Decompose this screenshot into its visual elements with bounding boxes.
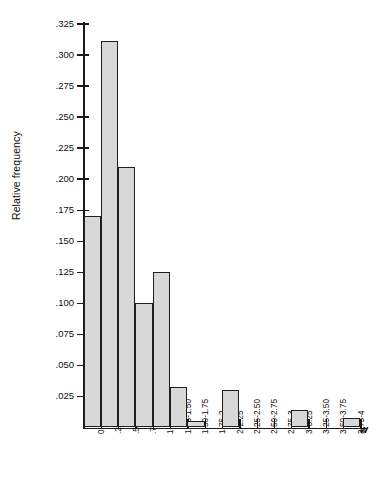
- histogram-bar: [291, 410, 308, 427]
- histogram-bar: [343, 418, 360, 428]
- y-tick: [77, 116, 89, 117]
- histogram-bar: [135, 303, 152, 427]
- y-axis-title: Relative frequency: [10, 60, 30, 220]
- x-tick-label: 2.25-2.50: [252, 374, 263, 434]
- histogram-bar: [222, 390, 239, 427]
- histogram-bar: [187, 421, 204, 427]
- y-tick-label: .250: [42, 112, 74, 121]
- y-tick: [77, 147, 89, 148]
- x-tick-label: 3.25-3.50: [321, 374, 332, 434]
- y-tick-label: .125: [42, 267, 74, 276]
- y-tick: [77, 54, 89, 55]
- y-tick: [77, 85, 89, 86]
- y-tick-label: .075: [42, 329, 74, 338]
- y-tick-label: .275: [42, 81, 74, 90]
- histogram-bar: [170, 387, 187, 428]
- histogram-figure: Relative frequency .325.300.275.250.225.…: [0, 0, 382, 482]
- histogram-bar: [118, 167, 135, 428]
- y-tick-label: .100: [42, 298, 74, 307]
- y-tick-label: .300: [42, 50, 74, 59]
- y-tick-label: .325: [42, 19, 74, 28]
- y-tick-label: .175: [42, 205, 74, 214]
- y-tick-label: .025: [42, 391, 74, 400]
- y-tick-label: .200: [42, 174, 74, 183]
- histogram-bar: [153, 272, 170, 427]
- x-tick-label: 2.50-2.75: [269, 374, 280, 434]
- y-tick: [77, 210, 89, 211]
- y-tick-label: .050: [42, 360, 74, 369]
- x-axis-title: w: [360, 424, 368, 435]
- histogram-bar: [101, 41, 118, 427]
- y-tick: [77, 23, 89, 24]
- y-tick: [77, 178, 89, 179]
- y-tick-label: .225: [42, 143, 74, 152]
- histogram-bar: [84, 216, 101, 427]
- y-tick-label: .150: [42, 236, 74, 245]
